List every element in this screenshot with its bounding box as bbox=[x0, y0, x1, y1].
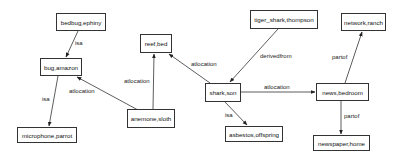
node-news-bedroom[interactable]: news,bedroom bbox=[316, 83, 369, 101]
edge-bug-microphone bbox=[49, 76, 58, 126]
edge-anemone-reef bbox=[153, 54, 154, 109]
edge-label-atlocation-4: atlocation bbox=[264, 84, 290, 90]
edge-label-isa-2: isa bbox=[42, 96, 50, 102]
node-anemone-sloth[interactable]: anemone,sloth bbox=[127, 109, 175, 128]
node-shark-son[interactable]: shark,son bbox=[205, 83, 241, 102]
node-bedbug-ephiny[interactable]: bedbug,ephiny bbox=[56, 13, 106, 31]
edge-news-network bbox=[345, 32, 362, 83]
edge-label-derivedfrom: derivedfrom bbox=[260, 53, 292, 59]
edge-label-atlocation-1: atlocation bbox=[69, 88, 95, 94]
edge-label-atlocation-2: atlocation bbox=[124, 78, 150, 84]
edge-label-partof-1: partof bbox=[332, 54, 347, 60]
node-bug-amazon[interactable]: bug,amazon bbox=[40, 58, 82, 76]
node-microphone-parrot[interactable]: microphone,parrot bbox=[17, 127, 77, 143]
edge-label-isa-1: isa bbox=[75, 40, 83, 46]
node-newspaper-home[interactable]: newspaper,home bbox=[313, 135, 370, 151]
node-network-ranch[interactable]: network,ranch bbox=[341, 13, 386, 31]
edge-label-atlocation-3: atlocation bbox=[191, 61, 217, 67]
edge-shark-reef bbox=[169, 54, 210, 83]
edge-label-isa-3: isa bbox=[225, 112, 233, 118]
node-reef-bed[interactable]: reef,bed bbox=[140, 34, 172, 53]
edge-label-partof-2: partof bbox=[344, 113, 359, 119]
node-asbestos-offspring[interactable]: asbestos,offspring bbox=[225, 126, 283, 142]
node-tiger-shark-thompson[interactable]: tiger_shark,thompson bbox=[250, 10, 318, 29]
